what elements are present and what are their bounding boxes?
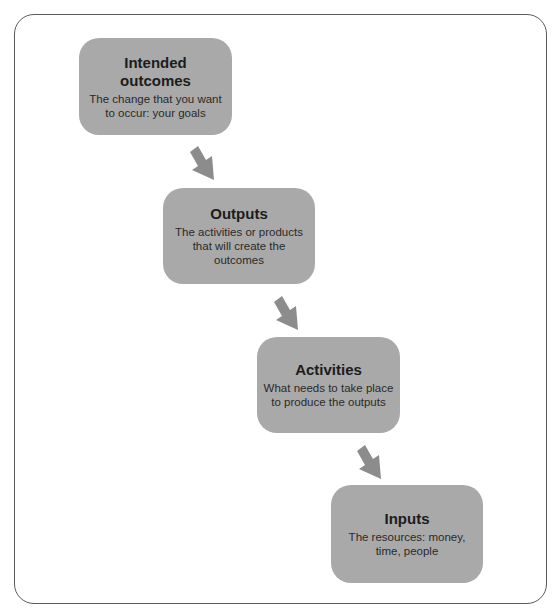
- step-title: Activities: [295, 361, 362, 379]
- step-inputs: Inputs The resources: money, time, peopl…: [331, 485, 483, 583]
- step-intended-outcomes: Intendedoutcomes The change that you wan…: [79, 38, 232, 135]
- arrow-down-right-icon: [355, 445, 385, 481]
- step-activities: Activities What needs to take place to p…: [257, 337, 400, 433]
- step-description: The activities or products that will cre…: [174, 225, 304, 267]
- step-description: The resources: money, time, people: [347, 530, 467, 558]
- step-description: What needs to take place to produce the …: [260, 381, 398, 409]
- step-outputs: Outputs The activities or products that …: [163, 188, 315, 284]
- step-description: The change that you want to occur: your …: [88, 92, 223, 120]
- step-title: Outputs: [210, 205, 268, 223]
- arrow-down-right-icon: [272, 296, 302, 332]
- arrow-down-right-icon: [188, 146, 218, 182]
- step-title: Intendedoutcomes: [120, 54, 191, 90]
- step-title: Inputs: [385, 510, 430, 528]
